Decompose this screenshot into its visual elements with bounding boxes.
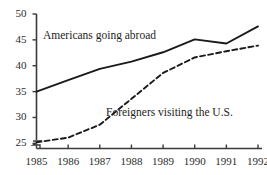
- y-tick-label: 45: [7, 34, 27, 45]
- x-tick-label: 1991: [209, 156, 243, 167]
- x-tick-label: 1989: [146, 156, 180, 167]
- y-tick-label: 50: [7, 8, 27, 19]
- series-line-foreigners-visiting-us: [37, 46, 259, 143]
- line-chart: 253035404550 198519861987198819891990199…: [0, 0, 267, 175]
- y-tick-label: 30: [7, 111, 27, 122]
- x-tick-label: 1986: [51, 156, 85, 167]
- x-tick-label: 1987: [83, 156, 117, 167]
- series-annotation-foreigners-visiting-us: Foreigners visiting the U.S.: [106, 107, 233, 119]
- y-tick-label: 25: [7, 137, 27, 148]
- y-tick-label: 35: [7, 86, 27, 97]
- x-tick-label: 1988: [114, 156, 148, 167]
- y-tick-label: 40: [7, 60, 27, 71]
- x-tick-label: 1990: [178, 156, 212, 167]
- chart-plot-area: [0, 0, 267, 175]
- series-annotation-americans-going-abroad: Americans going abroad: [43, 30, 156, 42]
- x-tick-label: 1985: [20, 156, 54, 167]
- x-tick-label: 1992: [241, 156, 267, 167]
